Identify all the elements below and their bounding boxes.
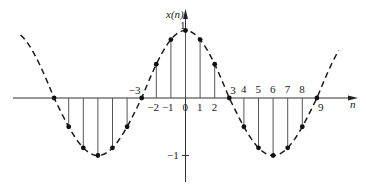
x-tick-label: −2 (147, 101, 159, 113)
sample-point (139, 96, 144, 101)
sample-point (227, 96, 232, 101)
sample-point (198, 37, 203, 42)
sample-point (256, 145, 261, 150)
sample-point (66, 124, 71, 129)
sample-point (300, 124, 305, 129)
y-min-label: −1 (167, 149, 179, 161)
x-tick-label: 3 (230, 84, 236, 96)
sample-point (271, 153, 276, 158)
x-tick-label: 8 (299, 83, 305, 95)
sample-point (125, 124, 130, 129)
x-tick-label: 5 (256, 83, 262, 95)
x-tick-label: 0 (183, 101, 189, 113)
x-axis-label: n (350, 98, 356, 110)
x-tick-label: −3 (129, 84, 141, 96)
x-tick-label: −1 (162, 101, 174, 113)
x-tick-label: 6 (270, 83, 276, 95)
sample-point (212, 62, 217, 67)
sample-point (242, 124, 247, 129)
sample-point (52, 96, 57, 101)
sample-point (154, 62, 159, 67)
y-axis-arrow-icon (183, 9, 188, 19)
x-tick-label: 7 (285, 83, 291, 95)
sample-point (169, 37, 174, 42)
x-tick-label: 4 (241, 83, 247, 95)
x-tick-label: 2 (212, 101, 218, 113)
sample-point (96, 153, 101, 158)
x-tick-label: 1 (197, 101, 203, 113)
sample-point (81, 145, 86, 150)
sample-point (110, 145, 115, 150)
y-max-label: 1 (180, 19, 186, 31)
x-tick-label: 9 (318, 101, 324, 113)
sample-point (315, 96, 320, 101)
sample-point (285, 145, 290, 150)
cosine-envelope-dashed (21, 31, 339, 156)
stem-plot: −3−2−10123456789 x(n) 1 −1 n (0, 0, 366, 193)
